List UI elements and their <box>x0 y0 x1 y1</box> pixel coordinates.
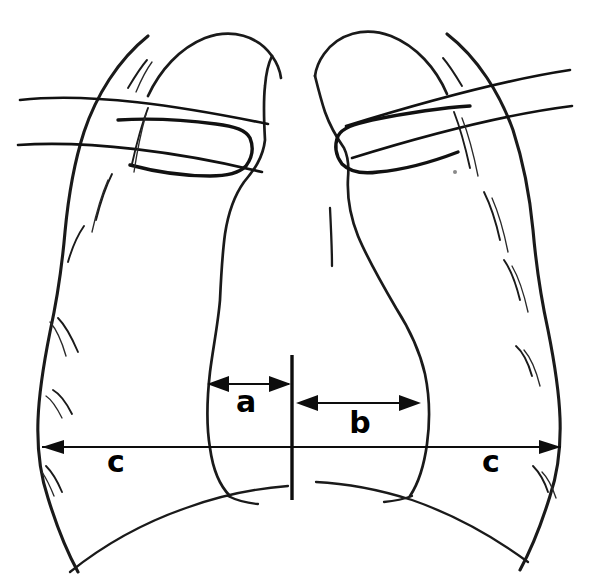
measure-label-a: a <box>236 384 256 419</box>
figure-root: c c a b <box>0 0 590 588</box>
measure-label-b: b <box>349 405 370 440</box>
scan-speck-artifact <box>453 170 457 174</box>
measure-label-c-right: c <box>482 444 500 479</box>
measure-label-c-left: c <box>107 444 125 479</box>
chest-xray-schematic: c c a b <box>0 0 590 588</box>
figure-background <box>0 0 590 588</box>
